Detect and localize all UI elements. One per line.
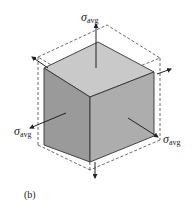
label-left: σavg bbox=[14, 124, 31, 139]
cube bbox=[44, 42, 154, 162]
figure-caption: (b) bbox=[24, 189, 36, 201]
stress-cube-diagram: σavg σavg σavg (b) bbox=[0, 0, 193, 211]
label-top: σavg bbox=[81, 10, 98, 25]
arrow-right bbox=[157, 69, 171, 74]
label-right: σavg bbox=[163, 132, 180, 147]
